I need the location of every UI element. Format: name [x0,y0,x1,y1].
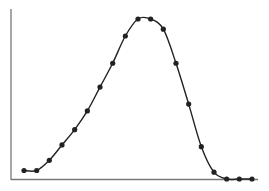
data-point [161,27,166,32]
data-markers [21,16,254,181]
data-point [173,61,178,66]
data-point [135,16,140,21]
data-point [110,61,115,66]
data-line [24,17,252,179]
data-point [123,33,128,38]
data-point [85,108,90,113]
data-point [34,168,39,173]
data-point [249,176,254,181]
data-point [186,102,191,107]
data-point [21,168,26,173]
data-point [97,84,102,89]
data-point [199,144,204,149]
data-point [148,16,153,21]
data-point [224,176,229,181]
line-chart [0,0,269,191]
data-point [72,127,77,132]
data-point [47,158,52,163]
data-point [237,176,242,181]
data-point [211,170,216,175]
data-point [59,142,64,147]
